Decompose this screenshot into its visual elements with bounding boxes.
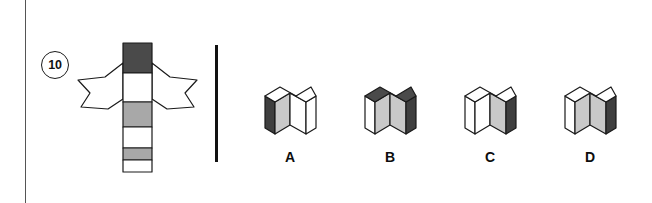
answer-options: A B bbox=[238, 84, 652, 174]
section-divider bbox=[215, 45, 218, 162]
question-number-text: 10 bbox=[48, 58, 61, 72]
option-a-label: A bbox=[285, 149, 295, 165]
answer-option-c[interactable]: C bbox=[438, 84, 542, 174]
net-cell-6 bbox=[123, 160, 152, 172]
page-edge-rule bbox=[25, 0, 26, 203]
net-cell-4 bbox=[123, 127, 152, 148]
answer-option-b[interactable]: B bbox=[338, 84, 442, 174]
option-b-label: B bbox=[385, 149, 395, 165]
cube-net-figure bbox=[75, 33, 200, 173]
option-a-solid bbox=[259, 84, 321, 142]
option-d-solid bbox=[559, 84, 621, 142]
question-page: 10 bbox=[0, 0, 652, 203]
net-cell-2 bbox=[123, 73, 152, 102]
option-c-label: C bbox=[485, 149, 495, 165]
net-wing-right bbox=[152, 63, 197, 109]
net-wing-left bbox=[78, 63, 123, 109]
option-b-solid bbox=[359, 84, 421, 142]
option-d-label: D bbox=[585, 149, 595, 165]
net-cell-5 bbox=[123, 148, 152, 160]
answer-option-a[interactable]: A bbox=[238, 84, 342, 174]
question-number-badge: 10 bbox=[41, 51, 69, 79]
net-cell-1 bbox=[123, 43, 152, 73]
answer-option-d[interactable]: D bbox=[538, 84, 642, 174]
cube-net-svg bbox=[75, 33, 200, 173]
option-c-solid bbox=[459, 84, 521, 142]
net-cell-3 bbox=[123, 102, 152, 127]
